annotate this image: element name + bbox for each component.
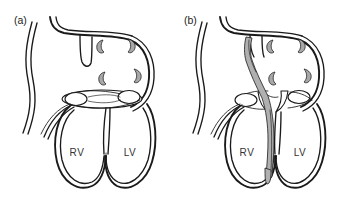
chamber-label-rv: RV (70, 147, 85, 158)
chamber-label-lv: LV (294, 147, 307, 158)
descending-vessel-b (193, 22, 207, 134)
chamber-label-lv: LV (124, 147, 137, 158)
panel-label-b: (b) (184, 14, 197, 26)
panel-b: (b) RV LV (184, 14, 325, 188)
lead-tip (265, 168, 271, 184)
cusp-icon (134, 69, 141, 83)
cusp-icon (97, 40, 104, 53)
great-vessel-arch-b (220, 17, 302, 40)
anatomical-diagram-svg: (a) RV LV (0, 0, 340, 203)
valve-annulus-closed-a (62, 90, 142, 108)
figure-container: (a) RV LV (0, 0, 340, 203)
ventricles-a (55, 104, 155, 188)
panel-a: (a) RV LV (14, 14, 155, 188)
great-vessel-arch-a (50, 17, 132, 40)
septal-tongue-a (80, 35, 92, 66)
cusp-icon (269, 72, 276, 85)
chordae-b (211, 104, 244, 139)
ventricles-b (225, 104, 325, 188)
panel-label-a: (a) (14, 14, 27, 26)
valve-cusps-a (97, 39, 141, 85)
valve-annulus-open-b (235, 91, 312, 114)
cusp-icon (99, 72, 106, 85)
chamber-label-rv: RV (240, 147, 255, 158)
cusp-icon (304, 69, 311, 83)
cusp-icon (267, 40, 274, 53)
chordae-a (41, 104, 74, 139)
valve-cusps-b (267, 39, 311, 85)
transvalvular-lead (245, 37, 275, 184)
descending-vessel-a (23, 22, 37, 134)
